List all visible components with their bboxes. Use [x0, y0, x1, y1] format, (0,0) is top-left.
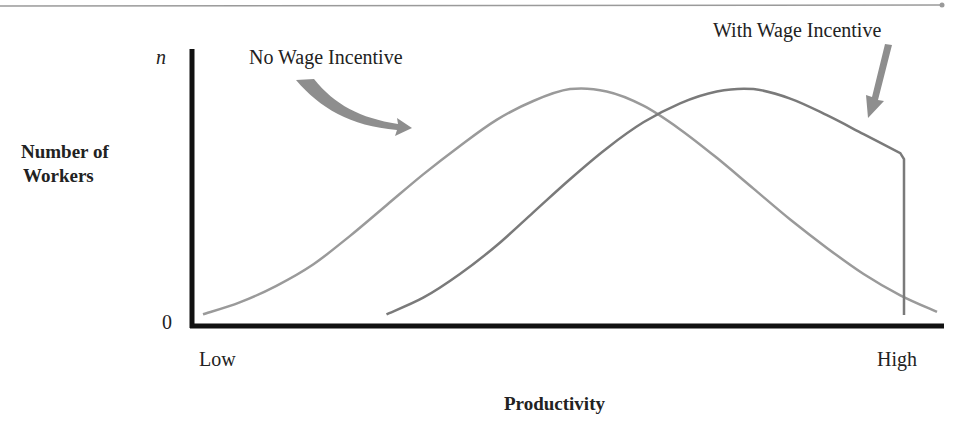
y-axis-zero-label: 0: [162, 311, 172, 334]
x-axis-low-label: Low: [199, 348, 236, 371]
arrow-no-wage-icon: [296, 79, 412, 136]
y-axis-top-label: n: [156, 46, 166, 69]
annotation-no-wage-incentive: No Wage Incentive: [249, 46, 403, 69]
x-axis-high-label: High: [877, 348, 917, 371]
curve-no-wage-incentive: [203, 88, 937, 314]
y-axis-title-line2: Workers: [23, 165, 94, 187]
curve-with-wage-incentive: [387, 89, 905, 315]
top-rule-dot: [940, 3, 945, 8]
y-axis-title-line1: Number of: [21, 141, 109, 163]
arrow-with-wage-icon: [866, 44, 892, 118]
annotation-with-wage-incentive: With Wage Incentive: [713, 19, 881, 42]
chart-canvas: [0, 0, 954, 430]
top-rule: [0, 5, 942, 6]
x-axis-title: Productivity: [504, 393, 605, 415]
